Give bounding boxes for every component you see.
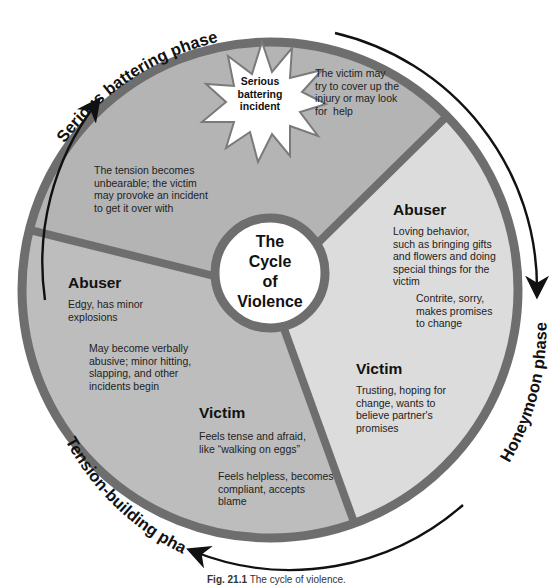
- text-line: incidents begin: [89, 380, 191, 393]
- text-line: try to cover up the: [315, 80, 399, 93]
- text-line: explosions: [68, 311, 143, 324]
- text-line: for help: [315, 105, 399, 118]
- text-line: to change: [416, 317, 492, 330]
- text-line: May become verbally: [89, 342, 191, 355]
- text-line: special things for the: [393, 263, 496, 276]
- text-line: like “walking on eggs”: [199, 443, 306, 456]
- tension-abuser-text: Edgy, has minor explosions: [68, 298, 143, 323]
- serious-battering-incident-label: Serious battering incident: [222, 75, 298, 113]
- honeymoon-abuser-contrite-text: Contrite, sorry, makes promises to chang…: [416, 292, 492, 330]
- honeymoon-abuser-heading: Abuser: [393, 201, 446, 219]
- tension-victim-heading: Victim: [199, 404, 245, 422]
- honeymoon-victim-text: Trusting, hoping for change, wants to be…: [356, 384, 446, 434]
- text-line: and flowers and doing: [393, 250, 496, 263]
- tension-abuser-verbal-text: May become verbally abusive; minor hitti…: [89, 342, 191, 392]
- text-line: may provoke an incident: [94, 189, 208, 202]
- text-line: Loving behavior,: [393, 225, 496, 238]
- center-title-line: of: [215, 272, 325, 292]
- text-line: injury or may look: [315, 92, 399, 105]
- text-line: Contrite, sorry,: [416, 292, 492, 305]
- text-line: The victim may: [315, 67, 399, 80]
- text-line: unbearable; the victim: [94, 177, 208, 190]
- text-line: Feels tense and afraid,: [199, 430, 306, 443]
- text-line: The tension becomes: [94, 164, 208, 177]
- star-line: incident: [222, 100, 298, 113]
- star-line: battering: [222, 88, 298, 101]
- center-title: The Cycle of Violence: [215, 232, 325, 312]
- text-line: such as bringing gifts: [393, 238, 496, 251]
- text-line: compliant, accepts: [218, 483, 334, 496]
- text-line: Feels helpless, becomes: [218, 470, 334, 483]
- text-line: blame: [218, 495, 334, 508]
- text-line: Edgy, has minor: [68, 298, 143, 311]
- text-line: promises: [356, 422, 446, 435]
- caption-label: Fig. 21.1: [207, 574, 247, 585]
- text-line: believe partner's: [356, 409, 446, 422]
- center-title-line: The: [215, 232, 325, 252]
- tension-victim-helpless-text: Feels helpless, becomes compliant, accep…: [218, 470, 334, 508]
- tension-unbearable-text: The tension becomes unbearable; the vict…: [94, 164, 208, 214]
- figure-caption: Fig. 21.1 The cycle of violence.: [207, 574, 346, 585]
- victim-cover-up-text: The victim may try to cover up the injur…: [315, 67, 399, 117]
- tension-abuser-heading: Abuser: [68, 274, 121, 292]
- text-line: change, wants to: [356, 397, 446, 410]
- star-line: Serious: [222, 75, 298, 88]
- honeymoon-abuser-text: Loving behavior, such as bringing gifts …: [393, 225, 496, 288]
- honeymoon-victim-heading: Victim: [356, 360, 402, 378]
- caption-text: The cycle of violence.: [250, 574, 346, 585]
- text-line: slapping, and other: [89, 367, 191, 380]
- text-line: makes promises: [416, 305, 492, 318]
- tension-victim-text: Feels tense and afraid, like “walking on…: [199, 430, 306, 455]
- center-title-line: Cycle: [215, 252, 325, 272]
- center-title-line: Violence: [215, 292, 325, 312]
- text-line: victim: [393, 275, 496, 288]
- text-line: abusive; minor hitting,: [89, 355, 191, 368]
- text-line: to get it over with: [94, 202, 208, 215]
- text-line: Trusting, hoping for: [356, 384, 446, 397]
